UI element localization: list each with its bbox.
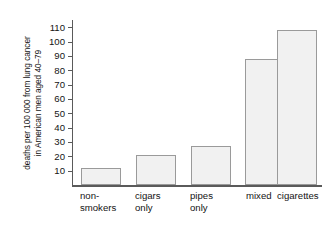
bar-pipes-only xyxy=(191,146,231,185)
y-tick-mark: 90 xyxy=(68,56,72,57)
x-label-line-1: pipes xyxy=(190,190,213,201)
x-label-mixed: mixed xyxy=(246,190,272,202)
y-tick-label: 100 xyxy=(49,37,65,47)
x-label-pipes-only: pipesonly xyxy=(190,190,213,213)
y-tick-label: 10 xyxy=(54,166,65,176)
y-tick-mark: 10 xyxy=(68,171,72,172)
plot-area: 102030405060708090100110 xyxy=(72,20,322,186)
y-axis-title-line-2: in American men aged 40–79 xyxy=(32,36,43,169)
bar-non-smokers xyxy=(81,168,121,185)
y-tick-mark: 30 xyxy=(68,142,72,143)
x-label-line-2: only xyxy=(190,202,213,214)
y-tick-label: 90 xyxy=(54,52,65,62)
x-label-line-1: mixed xyxy=(246,190,272,201)
y-tick-label: 20 xyxy=(54,152,65,162)
x-label-line-2: smokers xyxy=(80,202,116,214)
y-tick-label: 80 xyxy=(54,66,65,76)
x-label-cigarettes: cigarettes xyxy=(277,190,319,202)
x-label-non-smokers: non-smokers xyxy=(80,190,116,213)
y-tick-mark: 80 xyxy=(68,70,72,71)
y-tick-mark: 100 xyxy=(68,42,72,43)
y-axis-title: deaths per 100 000 from lung cancer in A… xyxy=(14,18,50,188)
y-tick-label: 50 xyxy=(54,109,65,119)
x-label-cigars-only: cigarsonly xyxy=(135,190,161,213)
y-tick-mark: 20 xyxy=(68,156,72,157)
y-tick-mark: 60 xyxy=(68,99,72,100)
bar-series xyxy=(73,20,322,185)
y-tick-label: 70 xyxy=(54,80,65,90)
x-label-line-2: only xyxy=(135,202,161,214)
x-label-line-1: non- xyxy=(80,190,99,201)
x-label-line-1: cigarettes xyxy=(277,190,319,201)
y-tick-mark: 70 xyxy=(68,85,72,86)
bar-cigars-only xyxy=(136,155,176,185)
bar-chart: deaths per 100 000 from lung cancer in A… xyxy=(0,0,333,230)
y-tick-label: 60 xyxy=(54,95,65,105)
y-tick-mark: 50 xyxy=(68,113,72,114)
y-axis-title-line-1: deaths per 100 000 from lung cancer xyxy=(22,36,33,169)
y-tick-label: 110 xyxy=(50,23,65,33)
x-axis-category-labels: non-smokerscigarsonlypipesonlymixedcigar… xyxy=(72,190,327,226)
x-label-line-1: cigars xyxy=(135,190,161,201)
y-tick-mark: 110 xyxy=(68,27,72,28)
bar-cigarettes xyxy=(277,30,317,185)
y-tick-label: 30 xyxy=(54,138,65,148)
y-tick-mark: 40 xyxy=(68,128,72,129)
y-tick-label: 40 xyxy=(54,123,65,133)
x-axis-line xyxy=(72,185,322,187)
